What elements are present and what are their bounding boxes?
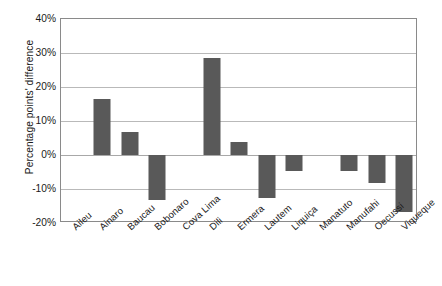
plot-area <box>60 18 417 222</box>
bar <box>286 155 303 171</box>
bar-slot <box>226 19 253 221</box>
bar <box>368 155 385 183</box>
y-axis-tick-label: -10% <box>10 183 56 194</box>
bar-slot <box>61 19 88 221</box>
bar <box>231 142 248 155</box>
bar <box>341 155 358 171</box>
bar-slot <box>308 19 335 221</box>
bar <box>149 155 166 200</box>
bar <box>204 58 221 155</box>
bar <box>121 132 138 155</box>
bar-slot <box>363 19 390 221</box>
x-axis-tick-labels: AileuAinaroBaucauBobonaroCova LimaDiliEr… <box>60 222 417 286</box>
bar-slot <box>336 19 363 221</box>
bar-slot <box>116 19 143 221</box>
bar-slot <box>281 19 308 221</box>
bar-slot <box>391 19 418 221</box>
y-axis-tick-label: 10% <box>10 115 56 126</box>
bar-chart: Percentage points' difference 40%30%20%1… <box>0 0 442 286</box>
bar <box>258 155 275 198</box>
bars-group <box>61 19 416 221</box>
y-axis-tick-label: 30% <box>10 47 56 58</box>
bar-slot <box>198 19 225 221</box>
bar-slot <box>143 19 170 221</box>
bar <box>94 99 111 155</box>
bar-slot <box>88 19 115 221</box>
y-axis-tick-label: 0% <box>10 149 56 160</box>
y-axis-tick-label: 40% <box>10 13 56 24</box>
bar-slot <box>171 19 198 221</box>
bar-slot <box>253 19 280 221</box>
y-axis-tick-label: 20% <box>10 81 56 92</box>
y-axis-tick-label: -20% <box>10 217 56 228</box>
